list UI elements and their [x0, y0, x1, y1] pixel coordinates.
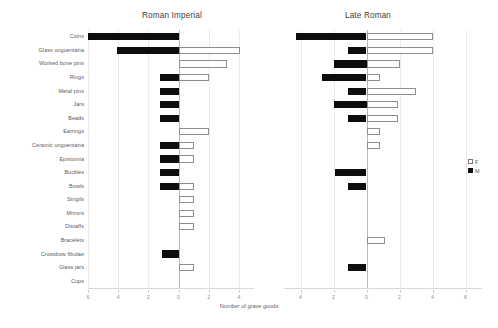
gridline — [88, 30, 89, 288]
x-tick-label: 0 — [359, 294, 375, 300]
bar-m — [322, 74, 367, 81]
category-label: Jars — [73, 101, 84, 108]
bar-f — [179, 128, 209, 135]
tick-mark — [466, 290, 467, 293]
x-tick-label: 6 — [458, 294, 474, 300]
tick-mark — [239, 290, 240, 293]
legend-label: F — [475, 159, 478, 165]
bar-m — [160, 183, 178, 190]
bar-f — [367, 47, 433, 54]
bar-m — [160, 115, 178, 122]
bar-m — [160, 169, 178, 176]
bar-m — [162, 250, 179, 257]
tick-mark — [179, 290, 180, 293]
category-label: Distaffs — [65, 223, 84, 230]
legend: FM — [468, 157, 480, 175]
chart-figure: Roman Imperial Late Roman CoinsGlass ung… — [0, 0, 498, 328]
category-label: Glass jars — [59, 264, 84, 271]
bar-f — [179, 142, 194, 149]
bar-f — [367, 33, 433, 40]
bar-m — [160, 155, 178, 162]
x-tick-label: 6 — [80, 294, 96, 300]
legend-swatch-f-icon — [468, 159, 473, 164]
legend-swatch-m-icon — [468, 168, 473, 173]
bar-f — [179, 264, 194, 271]
tick-mark — [209, 290, 210, 293]
gridline — [239, 30, 240, 288]
bar-m — [335, 169, 366, 176]
category-label: Crossbow fibulae — [41, 251, 84, 258]
bar-m — [348, 47, 366, 54]
bar-f — [179, 47, 241, 54]
category-label: Worked bone pins — [39, 60, 84, 67]
bar-f — [179, 183, 194, 190]
left-panel-title: Roman Imperial — [88, 11, 256, 20]
bar-f — [367, 101, 398, 108]
baseline — [284, 288, 482, 289]
tick-mark — [334, 290, 335, 293]
x-axis-title: Number of grave goods — [189, 303, 309, 309]
tick-mark — [148, 290, 149, 293]
gridline — [334, 30, 335, 288]
x-tick-label: 4 — [110, 294, 126, 300]
bar-m — [88, 33, 179, 40]
tick-mark — [301, 290, 302, 293]
x-tick-label: 2 — [140, 294, 156, 300]
category-label: Bowls — [69, 183, 84, 190]
bar-m — [160, 101, 178, 108]
bar-f — [367, 115, 398, 122]
bar-f — [367, 128, 380, 135]
category-label: Rings — [70, 74, 84, 81]
bar-f — [367, 88, 417, 95]
x-tick-label: 2 — [392, 294, 408, 300]
bar-f — [179, 210, 194, 217]
x-tick-label: 4 — [293, 294, 309, 300]
tick-mark — [433, 290, 434, 293]
bar-m — [296, 33, 367, 40]
bar-m — [348, 88, 366, 95]
gridline — [400, 30, 401, 288]
legend-item-m: M — [468, 166, 480, 175]
bar-f — [179, 223, 194, 230]
x-tick-label: 2 — [326, 294, 342, 300]
gridline — [209, 30, 210, 288]
category-label: Bracelets — [61, 237, 84, 244]
left-plot-area — [88, 30, 254, 288]
tick-mark — [367, 290, 368, 293]
legend-label: M — [475, 168, 480, 174]
bar-m — [160, 74, 178, 81]
bar-f — [179, 60, 227, 67]
category-label: Cups — [71, 278, 84, 285]
bar-m — [160, 142, 178, 149]
bar-m — [334, 101, 367, 108]
x-tick-label: 0 — [171, 294, 187, 300]
gridline — [148, 30, 149, 288]
bar-f — [367, 74, 380, 81]
bar-m — [160, 88, 178, 95]
gridline — [301, 30, 302, 288]
x-tick-label: 4 — [425, 294, 441, 300]
x-tick-label: 2 — [201, 294, 217, 300]
right-panel-title: Late Roman — [284, 11, 452, 20]
category-label: Ceramic unguentaria — [32, 142, 84, 149]
x-tick-label: 4 — [231, 294, 247, 300]
right-axis-ticks: 420246 — [284, 290, 482, 300]
bar-f — [179, 196, 194, 203]
bar-f — [367, 142, 380, 149]
bar-f — [179, 155, 194, 162]
bar-f — [179, 74, 209, 81]
bar-m — [334, 60, 367, 67]
category-label: Buckles — [64, 169, 84, 176]
tick-mark — [118, 290, 119, 293]
tick-mark — [400, 290, 401, 293]
category-label: Earrings — [63, 128, 84, 135]
category-label: Coins — [70, 33, 84, 40]
gridline — [118, 30, 119, 288]
category-label: Beads — [68, 115, 84, 122]
category-label: Mirrors — [67, 210, 84, 217]
gridline — [466, 30, 467, 288]
category-label: Strigils — [67, 196, 84, 203]
bar-m — [348, 115, 366, 122]
right-plot-area — [284, 30, 482, 288]
bar-m — [117, 47, 179, 54]
